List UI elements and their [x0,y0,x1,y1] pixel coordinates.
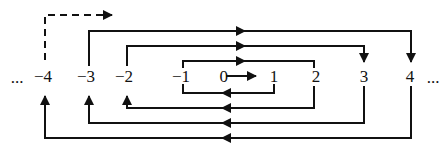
number-0: 0 [220,68,229,85]
number-neg3: −3 [77,68,95,85]
number-neg4: −4 [34,68,52,85]
arrow-2-to-neg2 [127,86,314,108]
number-1: 1 [270,68,279,85]
ellipsis-right: ... [427,69,440,86]
arrow-neg2-to-3 [127,46,364,66]
number-3: 3 [360,68,369,85]
dashed-continuation-arrow [45,15,112,60]
arrow-3-to-neg3 [89,86,364,123]
arrow-1-to-neg1 [183,84,274,93]
arrow-neg1-to-2 [183,61,314,68]
number-2: 2 [312,68,321,85]
number-neg1: −1 [172,68,190,85]
number-neg2: −2 [115,68,133,85]
number-4: 4 [406,68,415,85]
integer-spiral-diagram: ... −4 −3 −2 −1 0 1 2 3 4 ... [0,0,446,152]
ellipsis-left: ... [11,69,24,86]
